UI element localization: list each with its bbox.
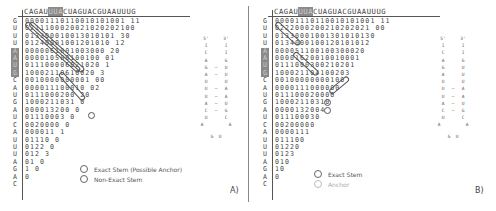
legend-item-non-exact-stem: Non-Exact Stem [80,174,182,184]
legend-item-anchor: Anchor [314,179,362,189]
base-pair: A—U [440,100,466,107]
row-labels: GUUUAAUGCAUGAUCAUUUAGAC [11,18,19,188]
legend: Exact Stem Anchor [314,169,362,189]
header-seq-highlight: UUA [298,7,313,16]
anchor-marker [324,107,331,114]
row-label-rule [272,10,273,200]
base-pair: CI [440,49,466,56]
base-pair: C—G [203,107,229,114]
base-pair: G—U [203,64,229,71]
stem-end-marker [88,112,95,119]
base-pair: U—A [440,93,466,100]
base-pair: CI [203,49,229,56]
header-seq-before: CAGAU [274,7,298,16]
row-label: C [11,181,19,188]
legend: Exact Stem (Possible Anchor) Non-Exact S… [80,164,182,184]
circle-icon [314,170,322,178]
dp-matrix: 00001110110010101001 1102111000200210202… [25,18,140,188]
circle-icon [80,175,88,183]
header-seq-after: CUAGUACGUAAUUUG [63,7,136,16]
loop-row: AA [436,121,470,128]
base-pair: AU [440,71,466,78]
row-label: C [261,181,269,188]
base-pair: A—U [203,71,229,78]
panel-a: CAGAUUUACUAGUACGUAAUUUG GUUUAAUGCAUGAUCA… [0,0,246,211]
row-labels: GUUUAAUGCAUGAUCAUUUAGAC [261,18,269,188]
base-pair: U—A [203,85,229,92]
header-seq-before: CAGAU [24,7,48,16]
base-pair: UU [203,78,229,85]
header-seq-highlight: UUA [48,7,63,16]
base-pair: AG [440,57,466,64]
panel-divider [248,6,249,202]
anchor-marker [324,99,331,106]
strand-ends: 5'3' [203,35,229,42]
base-pair: UC [203,114,229,121]
matrix-row: 0123 [275,151,390,158]
base-pair: II [203,42,229,49]
loop-row: GU [446,133,460,140]
panel-b: CAGAUUUACUAGUACGUAAUUUG GUUUAAUGCAUGAUCA… [250,0,496,211]
dp-matrix: 00001110110010101001 1102220002002102020… [275,18,390,188]
legend-item-exact-stem: Exact Stem (Possible Anchor) [80,164,182,174]
base-pair: U—A [203,93,229,100]
secondary-structure: 5'3'IICIAGGUAUUUU—AU—AA—UC—GUCAAGU [440,35,470,140]
loop-row: GU [209,133,223,140]
secondary-structure: 5'3'IICIAGG—UA—UUUU—AU—AA—UC—GUCAAGU [203,35,233,140]
panel-label: A) [230,186,239,195]
base-pair: AG [203,57,229,64]
circle-icon [80,165,88,173]
legend-item-exact-stem: Exact Stem [314,169,362,179]
circle-icon [314,180,322,188]
base-pair: C—G [440,107,466,114]
strand-ends: 5'3' [440,35,466,42]
base-pair: U—A [440,85,466,92]
header-seq-after: CUAGUACGUAAUUUG [313,7,386,16]
base-pair: GU [440,64,466,71]
sequence-header: CAGAUUUACUAGUACGUAAUUUG [24,7,136,16]
loop-row: AA [199,121,233,128]
base-pair: II [440,42,466,49]
base-pair: UU [440,78,466,85]
panel-label: B) [475,186,484,195]
base-pair: A—U [203,100,229,107]
matrix-row: 010 [275,159,390,166]
sequence-header: CAGAUUUACUAGUACGUAAUUUG [274,7,386,16]
base-pair: UC [440,114,466,121]
row-label-rule [22,10,23,200]
